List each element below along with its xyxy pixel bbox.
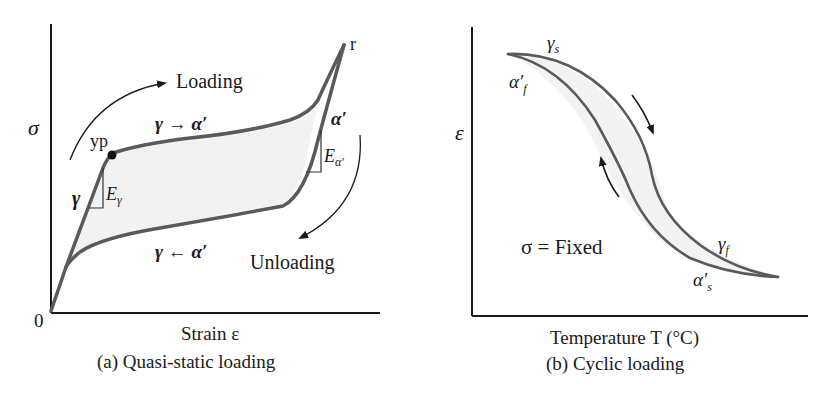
modulus-gamma-E: E <box>105 184 117 204</box>
modulus-gamma-sub: γ <box>117 193 122 207</box>
gamma-phase-label: γ <box>72 187 81 210</box>
upper-plateau-label: γ → α′ <box>155 113 207 134</box>
caption-a: (a) Quasi-static loading <box>97 351 276 373</box>
yield-point-marker <box>108 151 117 160</box>
origin-label: 0 <box>34 310 44 331</box>
caption-b: (b) Cyclic loading <box>546 353 685 375</box>
modulus-alpha-E: E <box>323 146 335 166</box>
rupture-label: r <box>350 34 356 54</box>
gamma-start-label: γs <box>547 32 560 56</box>
gamma-finish-label: γf <box>718 233 731 257</box>
lower-plateau-label: γ ← α′ <box>155 241 207 262</box>
loading-label: Loading <box>176 70 243 93</box>
alpha-phase-label: α′ <box>331 108 347 129</box>
alpha-finish-label: α′f <box>509 71 528 96</box>
figure-canvas: σ 0 Strain ε (a) Quasi-static loading Lo… <box>0 0 833 404</box>
alpha-start-label: α′s <box>693 269 712 294</box>
condition-label: σ = Fixed <box>521 235 603 259</box>
panel-a-quasi-static: σ 0 Strain ε (a) Quasi-static loading Lo… <box>28 24 380 373</box>
modulus-alpha-label: Eα′ <box>323 146 344 169</box>
condition-text: σ = Fixed <box>521 235 603 259</box>
x-axis-label-b: Temperature T (°C) <box>550 327 699 349</box>
yield-point-label: yp <box>90 131 108 151</box>
unloading-label: Unloading <box>250 251 334 274</box>
x-axis-label-b-text: Temperature T (°C) <box>550 327 699 349</box>
modulus-alpha-sub: α′ <box>335 155 344 169</box>
x-axis-label-a: Strain ε <box>181 323 239 344</box>
y-axis-label-a: σ <box>28 115 40 140</box>
panel-b-cyclic: ε Temperature T (°C) (b) Cyclic loading … <box>455 27 808 375</box>
y-axis-label-b: ε <box>455 120 464 145</box>
